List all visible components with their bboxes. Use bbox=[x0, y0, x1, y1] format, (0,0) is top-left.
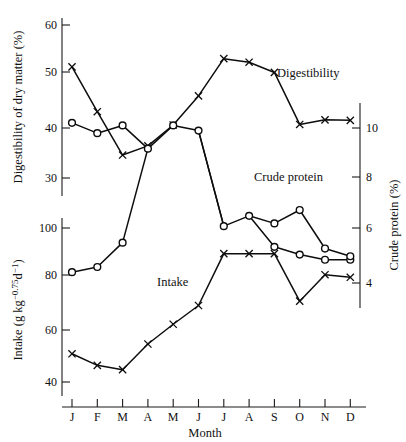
right-axis-title: Crude protein (%) bbox=[387, 180, 401, 271]
x-axis-tick-labels: JFMAMJJASOND bbox=[70, 410, 355, 424]
data-point bbox=[195, 127, 202, 134]
data-point bbox=[119, 122, 126, 129]
series-line bbox=[72, 123, 350, 260]
data-point bbox=[220, 223, 227, 230]
right-axis: 10 8 6 4 Crude protein (%) bbox=[352, 103, 401, 308]
x-tick-label-J: J bbox=[221, 410, 226, 424]
left-lower-tick-60: 60 bbox=[45, 323, 57, 337]
data-point bbox=[69, 119, 76, 126]
x-tick-label-M: M bbox=[117, 410, 128, 424]
x-tick-label-D: D bbox=[346, 410, 355, 424]
left-upper-tick-30: 30 bbox=[45, 171, 57, 185]
intake-title-sup2: −1 bbox=[10, 264, 20, 274]
data-point bbox=[347, 253, 354, 260]
x-tick-label-A: A bbox=[144, 410, 153, 424]
intake-title-sup1: −0.75 bbox=[10, 279, 20, 300]
left-lower-axis: 100 80 60 40 Intake (g kg−0.75d−1) bbox=[10, 218, 70, 396]
series-crude-protein bbox=[69, 119, 354, 263]
chart-figure: 60 50 40 30 Digestibility of dry matter … bbox=[0, 0, 406, 442]
right-tick-8: 8 bbox=[366, 170, 372, 184]
series-line bbox=[274, 210, 350, 256]
right-tick-4: 4 bbox=[366, 276, 372, 290]
data-point bbox=[322, 256, 329, 263]
x-tick-label-M: M bbox=[168, 410, 179, 424]
series-line-bridge bbox=[123, 149, 148, 243]
left-lower-tick-100: 100 bbox=[39, 221, 57, 235]
data-point bbox=[296, 298, 303, 305]
left-lower-tick-80: 80 bbox=[45, 268, 57, 282]
data-point bbox=[246, 212, 253, 219]
x-axis-title: Month bbox=[188, 426, 222, 440]
x-tick-label-J: J bbox=[196, 410, 201, 424]
intake-title-head: Intake (g kg bbox=[11, 299, 25, 360]
x-tick-label-J: J bbox=[70, 410, 75, 424]
data-point bbox=[322, 245, 329, 252]
data-point bbox=[144, 340, 151, 347]
data-point bbox=[296, 251, 303, 258]
data-point bbox=[145, 145, 152, 152]
x-tick-label-O: O bbox=[295, 410, 304, 424]
data-point bbox=[271, 243, 278, 250]
left-upper-tick-50: 50 bbox=[45, 65, 57, 79]
data-point bbox=[94, 108, 101, 115]
x-tick-label-S: S bbox=[271, 410, 278, 424]
data-point bbox=[119, 151, 126, 158]
left-upper-tick-60: 60 bbox=[45, 18, 57, 32]
x-axis: JFMAMJJASOND Month bbox=[62, 399, 366, 440]
left-lower-tick-40: 40 bbox=[45, 375, 57, 389]
left-upper-axis-title: Digestibility of dry matter (%) bbox=[11, 31, 25, 184]
series-line bbox=[72, 254, 350, 370]
data-point bbox=[94, 130, 101, 137]
data-point bbox=[68, 63, 75, 70]
line-chart-svg: 60 50 40 30 Digestibility of dry matter … bbox=[0, 0, 406, 442]
intake-title-tail: ) bbox=[11, 259, 25, 263]
data-point bbox=[296, 207, 303, 214]
x-axis-ticks bbox=[72, 399, 350, 407]
left-upper-axis: 60 50 40 30 Digestibility of dry matter … bbox=[11, 18, 70, 196]
data-point bbox=[119, 239, 126, 246]
right-tick-10: 10 bbox=[366, 121, 378, 135]
series-label-digestibility: Digestibility bbox=[277, 66, 340, 80]
plot-area bbox=[68, 55, 354, 373]
data-point bbox=[69, 269, 76, 276]
data-point bbox=[68, 350, 75, 357]
x-tick-label-N: N bbox=[321, 410, 330, 424]
data-point bbox=[195, 302, 202, 309]
data-point bbox=[170, 321, 177, 328]
data-point bbox=[271, 220, 278, 227]
series-label-crude-protein: Crude protein bbox=[254, 170, 324, 184]
data-point bbox=[170, 122, 177, 129]
data-point bbox=[195, 92, 202, 99]
x-tick-label-F: F bbox=[94, 410, 101, 424]
series-label-intake: Intake bbox=[157, 275, 189, 289]
data-point bbox=[94, 264, 101, 271]
right-tick-6: 6 bbox=[366, 221, 372, 235]
series-crude-protein-lower-segment- bbox=[69, 207, 354, 276]
x-tick-label-A: A bbox=[245, 410, 254, 424]
svg-text:Intake (g kg−0.75d−1): Intake (g kg−0.75d−1) bbox=[10, 259, 25, 360]
left-lower-axis-title: Intake (g kg−0.75d−1) bbox=[10, 259, 25, 360]
left-upper-tick-40: 40 bbox=[45, 121, 57, 135]
series-intake bbox=[68, 250, 354, 373]
